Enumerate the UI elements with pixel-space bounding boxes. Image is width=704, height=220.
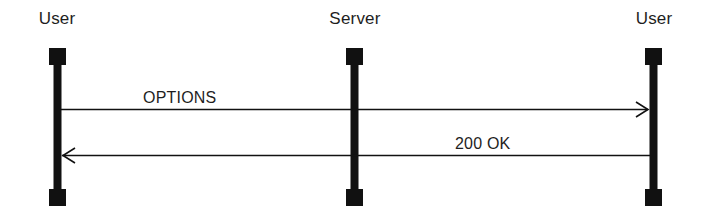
lifeline-top-box	[645, 48, 662, 65]
actor-label-server: Server	[329, 9, 380, 29]
message-label-options: OPTIONS	[143, 88, 216, 108]
lifeline-bottom-box	[49, 189, 66, 206]
lifeline-server	[346, 48, 363, 206]
lifeline-bar	[54, 64, 62, 190]
lifeline-bottom-box	[346, 189, 363, 206]
lifeline-top-box	[346, 48, 363, 65]
actor-label-user-right: User	[636, 9, 673, 29]
sequence-diagram-canvas	[0, 0, 704, 220]
actor-label-user-left: User	[39, 9, 76, 29]
message-label-200-ok: 200 OK	[455, 134, 510, 154]
lifeline-bar	[351, 64, 359, 190]
lifeline-user-left	[49, 48, 66, 206]
lifeline-user-right	[645, 48, 662, 206]
lifeline-bar	[650, 64, 658, 190]
lifeline-bottom-box	[645, 189, 662, 206]
lifeline-top-box	[49, 48, 66, 65]
